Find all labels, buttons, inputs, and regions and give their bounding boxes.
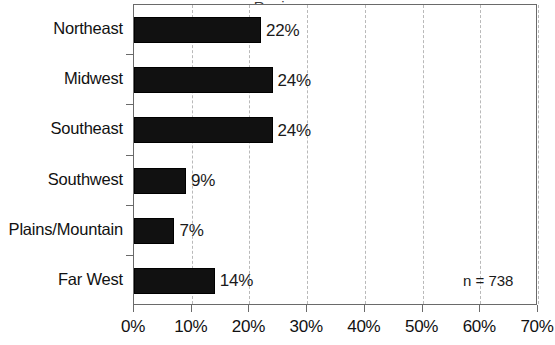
x-axis-label-10: 10% bbox=[174, 318, 207, 336]
bar-chart: Region NortheastMidwestSoutheastSouthwes… bbox=[0, 0, 555, 345]
x-axis-label-30: 30% bbox=[290, 318, 323, 336]
bar-value-label: 9% bbox=[191, 172, 215, 189]
x-axis-label-0: 0% bbox=[121, 318, 145, 336]
x-axis-tick bbox=[422, 305, 423, 312]
bar-value-label: 24% bbox=[278, 72, 311, 89]
y-axis-tick bbox=[126, 104, 133, 105]
bar-value-label: 7% bbox=[179, 222, 203, 239]
y-axis-tick bbox=[126, 255, 133, 256]
bar-southeast[interactable] bbox=[134, 117, 273, 143]
bars-layer: 22%24%24%9%7%14% bbox=[134, 5, 536, 304]
bar-slot: 24% bbox=[134, 55, 536, 105]
sample-size-annotation: n = 738 bbox=[463, 273, 513, 288]
plot-area: 22%24%24%9%7%14% n = 738 bbox=[133, 4, 537, 305]
x-axis-label-40: 40% bbox=[347, 318, 380, 336]
x-axis-tick bbox=[133, 305, 134, 312]
bar-far-west[interactable] bbox=[134, 268, 215, 294]
bar-value-label: 24% bbox=[278, 122, 311, 139]
category-axis-labels: NortheastMidwestSoutheastSouthwestPlains… bbox=[0, 4, 129, 305]
bar-southwest[interactable] bbox=[134, 168, 186, 194]
gridline-70 bbox=[538, 5, 539, 304]
category-label-southwest: Southwest bbox=[48, 171, 123, 188]
category-label-midwest: Midwest bbox=[64, 70, 123, 87]
bar-value-label: 14% bbox=[220, 272, 253, 289]
bar-slot: 24% bbox=[134, 105, 536, 155]
category-label-northeast: Northeast bbox=[53, 20, 123, 37]
bar-slot: 9% bbox=[134, 156, 536, 206]
x-axis-label-60: 60% bbox=[463, 318, 496, 336]
x-axis-label-20: 20% bbox=[232, 318, 265, 336]
x-axis-label-70: 70% bbox=[520, 318, 553, 336]
x-axis-tick bbox=[306, 305, 307, 312]
category-label-far-west: Far West bbox=[58, 271, 123, 288]
x-axis-tick bbox=[479, 305, 480, 312]
x-axis-tick bbox=[191, 305, 192, 312]
y-axis-tick bbox=[126, 54, 133, 55]
bar-plains-mountain[interactable] bbox=[134, 218, 174, 244]
category-label-plains-mountain: Plains/Mountain bbox=[9, 221, 123, 238]
bar-value-label: 22% bbox=[266, 22, 299, 39]
category-label-southeast: Southeast bbox=[50, 120, 123, 137]
bar-northeast[interactable] bbox=[134, 17, 261, 43]
x-axis-label-50: 50% bbox=[405, 318, 438, 336]
bar-midwest[interactable] bbox=[134, 67, 273, 93]
bar-slot: 7% bbox=[134, 206, 536, 256]
bar-slot: 22% bbox=[134, 5, 536, 55]
y-axis-tick bbox=[126, 205, 133, 206]
x-axis-tick bbox=[364, 305, 365, 312]
x-axis-tick bbox=[537, 305, 538, 312]
x-axis-tick bbox=[248, 305, 249, 312]
y-axis-tick bbox=[126, 155, 133, 156]
